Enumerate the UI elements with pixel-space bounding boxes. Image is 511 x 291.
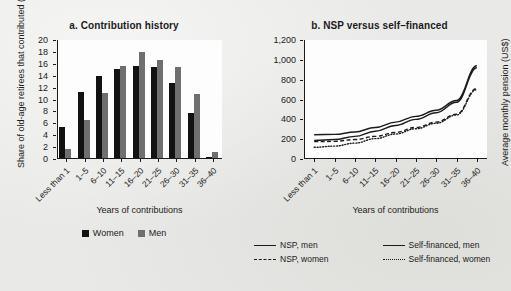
y-tick-label: 400 [281, 115, 296, 124]
y-tick-label: 12 [38, 83, 48, 92]
bar-men-6 [175, 67, 181, 159]
y-tick-mark [53, 147, 56, 148]
chart-b-title: b. NSP versus self–financed [248, 20, 511, 31]
y-tick-mark [300, 119, 303, 120]
chart-a-y-axis-line [57, 40, 58, 159]
chart-a-y-axis-label: Share of old-age retirees that contribut… [16, 38, 26, 168]
x-tick-mark [396, 159, 397, 162]
x-tick-mark [213, 159, 214, 162]
x-tick-mark [375, 159, 376, 162]
y-tick-label: 1,000 [273, 55, 296, 64]
figure-container: a. Contribution history Share of old-age… [0, 0, 511, 291]
x-tick-mark [436, 159, 437, 162]
y-tick-mark [300, 80, 303, 81]
chart-panel-b: b. NSP versus self–financed Average mont… [248, 0, 511, 291]
x-tick-mark [158, 159, 159, 162]
legend-swatch-men-icon [138, 230, 145, 237]
x-tick-mark [195, 159, 196, 162]
chart-a-bars [57, 40, 222, 159]
bar-men-7 [194, 94, 200, 159]
y-tick-label: 10 [38, 95, 48, 104]
chart-b-plot-area [304, 40, 487, 159]
legend-label-self-financed-women: Self-financed, women [409, 254, 491, 264]
chart-panel-a: a. Contribution history Share of old-age… [0, 0, 248, 291]
y-tick-label: 0 [291, 155, 296, 164]
line-nsp-men [314, 66, 477, 135]
chart-b-y-axis-line [304, 40, 305, 159]
x-tick-mark [121, 159, 122, 162]
y-tick-label: 6 [43, 119, 48, 128]
y-tick-mark [53, 135, 56, 136]
legend-label-women: Women [93, 228, 124, 238]
y-tick-mark [53, 111, 56, 112]
chart-a-title: a. Contribution history [0, 20, 248, 31]
y-tick-mark [53, 40, 56, 41]
y-tick-label: 20 [38, 36, 48, 45]
x-tick-mark [85, 159, 86, 162]
x-tick-mark [314, 159, 315, 162]
legend-item-self-financed-men: Self-financed, men [383, 238, 506, 252]
chart-a-legend: Women Men [0, 228, 248, 238]
x-tick-mark [103, 159, 104, 162]
chart-b-y-axis-label: Average monthly pension (US$) [500, 48, 510, 166]
bar-men-5 [157, 60, 163, 159]
chart-a-x-axis-label: Years of contributions [57, 205, 222, 215]
x-tick-mark [176, 159, 177, 162]
legend-label-self-financed-men: Self-financed, men [409, 240, 480, 250]
legend-item-men: Men [138, 228, 167, 238]
line-self-financed-men [314, 68, 477, 141]
legend-item-self-financed-women: Self-financed, women [383, 252, 506, 266]
y-tick-label: 200 [281, 135, 296, 144]
y-tick-label: 4 [43, 131, 48, 140]
x-tick-mark [477, 159, 478, 162]
y-tick-mark [300, 159, 303, 160]
bar-men-1 [84, 120, 90, 159]
bar-men-3 [120, 66, 126, 159]
y-tick-label: 14 [38, 71, 48, 80]
y-tick-label: 16 [38, 59, 48, 68]
legend-item-women: Women [82, 228, 124, 238]
legend-item-nsp-men: NSP, men [254, 238, 377, 252]
y-tick-label: 8 [43, 107, 48, 116]
legend-swatch-women-icon [82, 230, 89, 237]
legend-label-nsp-women: NSP, women [280, 254, 329, 264]
y-tick-mark [53, 88, 56, 89]
x-tick-mark [457, 159, 458, 162]
x-tick-mark [66, 159, 67, 162]
bar-men-2 [102, 93, 108, 159]
y-tick-label: 0 [43, 155, 48, 164]
x-tick-mark [416, 159, 417, 162]
y-tick-mark [300, 139, 303, 140]
chart-b-line-series [304, 40, 487, 159]
chart-b-x-axis-label: Years of contributions [304, 205, 487, 215]
chart-b-y-axis-label-text: Average monthly pension (US$) [500, 39, 510, 166]
x-tick-mark [355, 159, 356, 162]
legend-label-men: Men [149, 228, 167, 238]
y-tick-label: 1,200 [273, 36, 296, 45]
y-tick-mark [53, 52, 56, 53]
legend-item-nsp-women: NSP, women [254, 252, 377, 266]
y-tick-label: 2 [43, 143, 48, 152]
legend-label-nsp-men: NSP, men [280, 240, 318, 250]
bar-men-4 [139, 52, 145, 159]
chart-b-legend: NSP, men Self-financed, men NSP, women S… [254, 238, 505, 266]
y-tick-mark [300, 40, 303, 41]
x-tick-mark [335, 159, 336, 162]
y-tick-mark [53, 159, 56, 160]
chart-a-plot-area [57, 40, 222, 159]
x-tick-mark [140, 159, 141, 162]
y-tick-mark [53, 76, 56, 77]
y-tick-label: 800 [281, 75, 296, 84]
chart-a-y-axis-label-text: Share of old-age retirees that contribut… [16, 0, 26, 168]
y-tick-mark [53, 64, 56, 65]
y-tick-mark [300, 60, 303, 61]
y-tick-label: 600 [281, 95, 296, 104]
y-tick-mark [300, 100, 303, 101]
y-tick-label: 18 [38, 47, 48, 56]
y-tick-mark [53, 100, 56, 101]
y-tick-mark [53, 123, 56, 124]
